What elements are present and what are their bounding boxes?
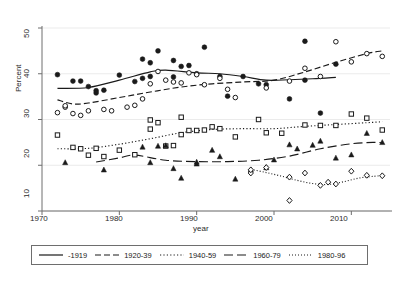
data-point-open-circle xyxy=(125,105,130,110)
data-points xyxy=(55,39,385,204)
data-point-open-square xyxy=(179,132,183,136)
y-tick-label-50: 50 xyxy=(22,18,31,38)
data-point-open-square xyxy=(187,128,191,132)
x-tick-label-1970: 1970 xyxy=(30,214,48,223)
data-point-open-circle xyxy=(179,81,184,86)
data-point-open-square xyxy=(171,143,175,147)
legend-item-1920-39[interactable]: 1920-39 xyxy=(94,251,152,260)
data-point-filled-circle xyxy=(148,60,153,65)
trend-line-1980-96 xyxy=(251,169,382,184)
y-tick-label-10: 10 xyxy=(22,178,31,198)
legend-label: 1980-96 xyxy=(318,251,346,260)
x-tick-label-1990: 1990 xyxy=(180,214,198,223)
data-point-open-square xyxy=(78,147,82,151)
data-point-filled-circle xyxy=(171,58,176,63)
legend-item-1980-96[interactable]: 1980-96 xyxy=(288,251,346,260)
legend-item--1919[interactable]: -1919 xyxy=(38,251,87,260)
data-point-open-square xyxy=(218,126,222,130)
data-point-filled-triangle xyxy=(349,152,354,157)
data-point-open-circle xyxy=(109,109,114,114)
data-point-filled-triangle xyxy=(364,130,369,135)
data-point-filled-triangle xyxy=(179,175,184,180)
data-point-open-circle xyxy=(187,71,192,76)
data-point-filled-circle xyxy=(287,97,292,102)
data-point-open-diamond xyxy=(287,198,292,204)
data-point-filled-circle xyxy=(179,64,184,69)
data-point-open-circle xyxy=(78,113,83,118)
legend-label: -1919 xyxy=(68,251,87,260)
data-point-open-square xyxy=(349,112,353,116)
legend-swatch-dotted-icon xyxy=(159,251,185,259)
data-point-open-square xyxy=(264,131,268,135)
data-point-filled-circle xyxy=(132,79,137,84)
data-point-open-square xyxy=(256,117,260,121)
data-point-open-circle xyxy=(334,39,339,44)
data-point-open-circle xyxy=(63,103,68,108)
data-point-open-circle xyxy=(349,60,354,65)
data-point-filled-triangle xyxy=(63,160,68,165)
data-point-open-circle xyxy=(218,76,223,81)
data-point-open-square xyxy=(380,128,384,132)
data-point-filled-circle xyxy=(303,39,308,44)
data-point-filled-circle xyxy=(101,88,106,93)
data-point-open-square xyxy=(210,125,214,129)
data-point-open-circle xyxy=(380,54,385,59)
data-point-filled-triangle xyxy=(140,144,145,149)
data-point-filled-triangle xyxy=(310,142,315,147)
series-1920-39 xyxy=(55,39,384,117)
data-point-open-square xyxy=(71,145,75,149)
data-point-filled-triangle xyxy=(148,160,153,165)
data-point-open-diamond xyxy=(326,179,331,185)
data-point-filled-circle xyxy=(117,73,122,78)
legend-label: 1940-59 xyxy=(189,251,217,260)
legend-item-1940-59[interactable]: 1940-59 xyxy=(159,251,217,260)
data-point-filled-triangle xyxy=(333,155,338,160)
data-point-open-square xyxy=(365,116,369,120)
series-1960-79 xyxy=(63,130,385,181)
data-point-filled-circle xyxy=(55,72,60,77)
data-point-filled-circle xyxy=(187,63,192,68)
data-point-open-circle xyxy=(303,66,308,71)
data-point-filled-circle xyxy=(86,84,91,89)
data-point-filled-circle xyxy=(71,79,76,84)
legend-swatch-long-dash-icon xyxy=(223,251,249,259)
y-tick-label-40: 40 xyxy=(22,58,31,78)
data-point-filled-triangle xyxy=(210,147,215,152)
data-point-open-circle xyxy=(365,51,370,56)
trend-line-1960-79 xyxy=(96,142,382,162)
data-point-open-square xyxy=(318,123,322,127)
data-point-open-square xyxy=(133,153,137,157)
data-point-open-diamond xyxy=(380,173,385,179)
data-point-open-square xyxy=(303,123,307,127)
data-point-filled-triangle xyxy=(217,154,222,159)
x-axis-label: year xyxy=(193,224,209,233)
legend-swatch-solid-icon xyxy=(38,251,64,259)
data-point-open-circle xyxy=(133,103,138,108)
data-point-open-circle xyxy=(225,87,230,92)
trend-lines xyxy=(57,51,382,185)
data-point-open-circle xyxy=(287,79,292,84)
data-point-open-square xyxy=(148,118,152,122)
data-point-open-square xyxy=(280,131,284,135)
legend-label: 1920-39 xyxy=(124,251,152,260)
chart-figure: Percent year 50 40 30 20 10 1970 1980 19… xyxy=(0,0,401,281)
data-point-open-diamond xyxy=(302,170,307,176)
data-point-filled-circle xyxy=(78,79,83,84)
series-1940-59 xyxy=(55,112,384,159)
data-point-open-circle xyxy=(194,72,199,77)
data-point-filled-circle xyxy=(333,62,338,67)
data-point-open-square xyxy=(55,133,59,137)
data-point-open-circle xyxy=(148,82,153,87)
data-point-open-diamond xyxy=(349,168,354,174)
data-point-filled-circle xyxy=(256,81,261,86)
legend-label: 1960-79 xyxy=(253,251,281,260)
data-point-open-circle xyxy=(86,109,91,114)
legend-row: -19191920-391940-591960-791980-96 xyxy=(32,246,367,264)
data-point-open-square xyxy=(194,128,198,132)
axis-lines xyxy=(38,26,392,215)
data-point-filled-triangle xyxy=(171,166,176,171)
data-point-open-square xyxy=(102,154,106,158)
legend-item-1960-79[interactable]: 1960-79 xyxy=(223,251,281,260)
x-tick-label-2010: 2010 xyxy=(330,214,348,223)
data-point-open-circle xyxy=(156,69,161,74)
